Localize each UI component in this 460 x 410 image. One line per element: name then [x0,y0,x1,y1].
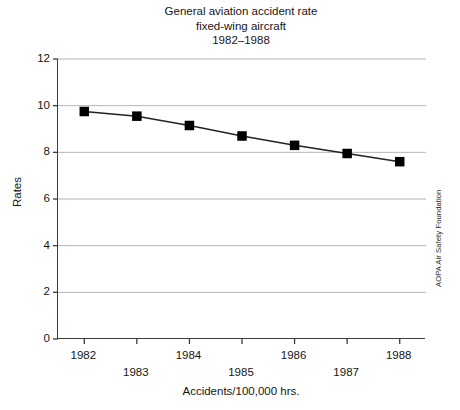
gridlines [58,59,426,292]
plot-area [57,59,425,339]
data-point-marker [237,131,247,141]
y-axis-tick-labels: 024681012 [0,59,50,339]
y-tick-marks [53,59,58,339]
y-tick-label: 2 [16,286,50,297]
x-axis-title: Accidents/100,000 hrs. [57,385,425,397]
chart-title-line-2: fixed-wing aircraft [57,19,425,34]
chart-container: General aviation accident rate fixed-win… [0,0,460,410]
data-point-marker [395,157,405,167]
data-point-marker [342,149,352,159]
x-tick-label: 1982 [53,349,113,361]
x-tick-label: 1985 [211,366,271,378]
x-tick-label: 1983 [106,366,166,378]
x-tick-label: 1987 [316,366,376,378]
data-point-marker [290,141,300,151]
data-point-marker [185,121,195,131]
chart-title-line-3: 1982–1988 [57,33,425,48]
plot-svg [58,59,426,339]
x-tick-label: 1988 [369,349,429,361]
data-point-marker [80,107,90,117]
data-point-marker [132,111,142,121]
y-tick-label: 10 [16,100,50,111]
chart-title: General aviation accident rate fixed-win… [57,4,425,48]
x-tick-label: 1986 [264,349,324,361]
chart-title-line-1: General aviation accident rate [57,4,425,19]
credit-label: AOPA Air Safety Foundation [434,190,443,287]
y-tick-label: 8 [16,146,50,157]
y-tick-label: 12 [16,53,50,64]
y-tick-label: 4 [16,240,50,251]
y-tick-label: 6 [16,193,50,204]
x-tick-label: 1984 [158,349,218,361]
x-axis-tick-labels: 1982198319841985198619871988 [0,339,460,389]
